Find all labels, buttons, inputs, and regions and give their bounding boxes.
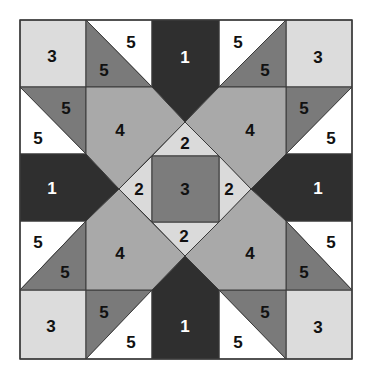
quilt-diagram: 333355555555555555551111444422223 <box>0 0 371 382</box>
piece-label-hst-r1c0-light: 5 <box>33 129 42 148</box>
piece-label-hst-r0c3-light: 5 <box>233 33 242 52</box>
piece-label-large-br: 4 <box>245 244 255 263</box>
piece-label-corner-bl: 3 <box>46 317 55 336</box>
piece-label-tri-right: 2 <box>224 180 233 199</box>
piece-label-hst-r0c3-dark: 5 <box>260 61 269 80</box>
piece-label-hst-r4c1-dark: 5 <box>99 303 108 322</box>
piece-label-large-bl: 4 <box>115 244 125 263</box>
piece-label-hst-r0c1-dark: 5 <box>99 61 108 80</box>
piece-label-hst-r4c3-dark: 5 <box>260 303 269 322</box>
piece-label-tri-top: 2 <box>180 134 189 153</box>
piece-label-center-square: 3 <box>180 180 189 199</box>
piece-label-hst-r4c1-light: 5 <box>126 333 135 352</box>
piece-label-dark-left: 1 <box>47 179 56 198</box>
piece-label-dark-top: 1 <box>180 48 189 67</box>
piece-label-corner-tr: 3 <box>313 48 322 67</box>
piece-label-hst-r3c0-light: 5 <box>33 233 42 252</box>
piece-label-dark-right: 1 <box>313 179 322 198</box>
piece-label-hst-r3c0-dark: 5 <box>60 263 69 282</box>
piece-label-tri-left: 2 <box>134 180 143 199</box>
piece-label-dark-bottom: 1 <box>180 317 189 336</box>
piece-label-corner-tl: 3 <box>47 47 56 66</box>
piece-label-large-tr: 4 <box>245 121 255 140</box>
piece-label-hst-r3c4-light: 5 <box>326 233 335 252</box>
piece-label-hst-r1c4-light: 5 <box>326 129 335 148</box>
piece-label-large-tl: 4 <box>115 121 125 140</box>
quilt-block-canvas: 333355555555555555551111444422223 <box>0 0 371 382</box>
piece-label-tri-bottom: 2 <box>179 227 188 246</box>
piece-label-corner-br: 3 <box>313 318 322 337</box>
piece-label-hst-r1c0-dark: 5 <box>61 99 70 118</box>
piece-label-hst-r3c4-dark: 5 <box>299 263 308 282</box>
piece-label-hst-r1c4-dark: 5 <box>299 99 308 118</box>
piece-label-hst-r0c1-light: 5 <box>126 33 135 52</box>
piece-label-hst-r4c3-light: 5 <box>233 333 242 352</box>
